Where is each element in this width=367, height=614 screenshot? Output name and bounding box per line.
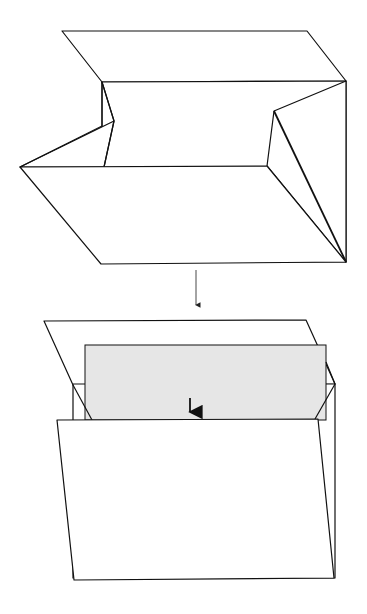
front-panel <box>57 419 334 580</box>
step-1-open-box <box>20 31 346 264</box>
left-end-flap <box>20 82 114 167</box>
box-folding-diagram <box>0 0 367 614</box>
top-flap <box>62 31 346 82</box>
inserted-sheet <box>85 345 326 420</box>
step-2-insert-sheet <box>44 320 335 580</box>
